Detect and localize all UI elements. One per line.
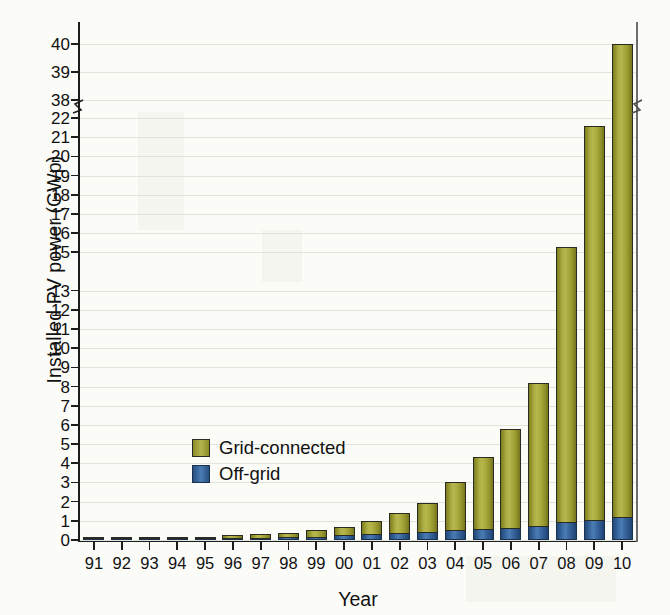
bar-segment-grid-connected (195, 537, 216, 539)
y-axis-tick-label: 12 (26, 302, 70, 319)
bar-segment-off-grid (556, 522, 577, 540)
right-axis-line (636, 22, 638, 542)
bar-06[interactable] (500, 429, 521, 540)
bar-00[interactable] (334, 527, 355, 540)
bar-91[interactable] (83, 539, 104, 540)
gridline (80, 348, 636, 349)
legend-label-off-grid: Off-grid (219, 463, 280, 485)
bar-segment-grid-connected (306, 530, 327, 537)
y-axis-tick-label: 4 (26, 455, 70, 472)
y-axis-tick-label: 9 (26, 359, 70, 376)
gridline (80, 156, 636, 157)
bar-97[interactable] (250, 534, 271, 540)
bar-segment-grid-connected (556, 247, 577, 523)
legend-label-grid-connected: Grid-connected (219, 437, 345, 459)
y-axis-tick (71, 43, 78, 45)
y-axis-tick (71, 136, 78, 138)
bar-99[interactable] (306, 530, 327, 540)
y-axis-tick-label: 11 (26, 321, 70, 338)
bar-segment-off-grid (584, 520, 605, 540)
gridline (80, 195, 636, 196)
y-axis-tick (71, 367, 78, 369)
x-axis-tick (232, 542, 234, 550)
y-axis-tick (71, 386, 78, 388)
bar-segment-off-grid (389, 533, 410, 540)
bar-09[interactable] (584, 126, 605, 540)
legend-swatch-grid-connected (192, 439, 210, 457)
y-axis-tick-label: 1 (26, 513, 70, 530)
y-axis-tick-label: 22 (26, 110, 70, 127)
y-axis-tick-label: 5 (26, 436, 70, 453)
legend-item-grid-connected: Grid-connected (192, 437, 345, 459)
bar-segment-grid-connected (222, 535, 243, 539)
x-axis-tick (593, 542, 595, 550)
x-axis-tick (176, 542, 178, 550)
gridline (80, 329, 636, 330)
gridline (80, 233, 636, 234)
y-axis-tick (71, 462, 78, 464)
bar-05[interactable] (473, 457, 494, 540)
bar-92[interactable] (111, 538, 132, 540)
bar-segment-grid-connected (389, 513, 410, 534)
x-axis-tick (510, 542, 512, 550)
y-axis-tick (71, 71, 78, 73)
bar-10[interactable] (612, 44, 633, 540)
gridline (80, 291, 636, 292)
bar-08[interactable] (556, 247, 577, 540)
x-axis-tick (315, 542, 317, 550)
bar-04[interactable] (445, 482, 466, 540)
y-axis-tick-label: 40 (26, 36, 70, 53)
bar-96[interactable] (222, 535, 243, 540)
gridline (80, 72, 636, 73)
bar-segment-off-grid (473, 529, 494, 540)
bar-03[interactable] (417, 503, 438, 540)
y-axis-tick (71, 443, 78, 445)
gridline (80, 387, 636, 388)
x-axis-tick (149, 542, 151, 550)
y-axis-tick-label: 20 (26, 148, 70, 165)
y-axis-tick (71, 290, 78, 292)
x-axis-tick (399, 542, 401, 550)
bar-95[interactable] (195, 537, 216, 540)
bar-segment-grid-connected (417, 503, 438, 533)
bar-segment-grid-connected (334, 527, 355, 537)
x-axis-tick (204, 542, 206, 550)
x-axis-tick (538, 542, 540, 550)
y-axis-tick (71, 347, 78, 349)
bar-segment-off-grid (612, 517, 633, 540)
y-axis-tick (71, 194, 78, 196)
gridline (80, 252, 636, 253)
bar-93[interactable] (139, 538, 160, 540)
y-axis-tick-label: 7 (26, 398, 70, 415)
bar-segment-grid-connected (445, 482, 466, 531)
y-axis-tick (71, 424, 78, 426)
gridline (80, 463, 636, 464)
bar-segment-grid-connected (250, 534, 271, 538)
bar-02[interactable] (389, 513, 410, 540)
y-axis-tick (71, 539, 78, 541)
bar-94[interactable] (167, 538, 188, 540)
y-axis-tick (71, 309, 78, 311)
y-axis-tick-label: 3 (26, 474, 70, 491)
bar-98[interactable] (278, 533, 299, 540)
bar-segment-grid-connected (111, 537, 132, 539)
y-axis-tick-label: 13 (26, 283, 70, 300)
bar-01[interactable] (361, 521, 382, 540)
bar-segment-grid-connected (167, 537, 188, 539)
y-axis-tick (71, 251, 78, 253)
gridline (80, 176, 636, 177)
bar-07[interactable] (528, 383, 549, 540)
y-axis-tick-label: 18 (26, 187, 70, 204)
y-axis-tick-label: 38 (26, 92, 70, 109)
y-axis-tick-label: 17 (26, 206, 70, 223)
y-axis-tick (71, 99, 78, 101)
gridline (80, 100, 636, 101)
y-axis-tick (71, 175, 78, 177)
gridline (80, 444, 636, 445)
y-axis-tick (71, 232, 78, 234)
bar-segment-grid-connected (528, 383, 549, 527)
gridline (80, 425, 636, 426)
gridline (80, 406, 636, 407)
y-axis-tick (71, 405, 78, 407)
x-axis-tick (427, 542, 429, 550)
